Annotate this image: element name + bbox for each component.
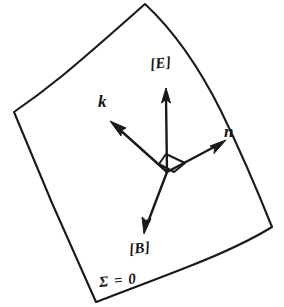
surface-outline xyxy=(14,4,272,302)
vector-k-label: k xyxy=(98,93,107,110)
vector-B-label: [B] xyxy=(128,240,151,258)
vector-n-label: n xyxy=(224,123,234,140)
vector-E-label: [E] xyxy=(149,55,172,73)
diagram-canvas xyxy=(0,0,284,307)
wavefront-vector-diagram: [E] [B] k n Σ = 0 xyxy=(0,0,284,307)
surface-outline-group xyxy=(14,4,272,302)
